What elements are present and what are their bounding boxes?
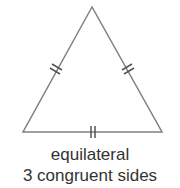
triangle-type-label: equilateral <box>0 145 180 165</box>
triangle-description-label: 3 congruent sides <box>0 166 180 186</box>
equilateral-triangle <box>23 7 162 132</box>
